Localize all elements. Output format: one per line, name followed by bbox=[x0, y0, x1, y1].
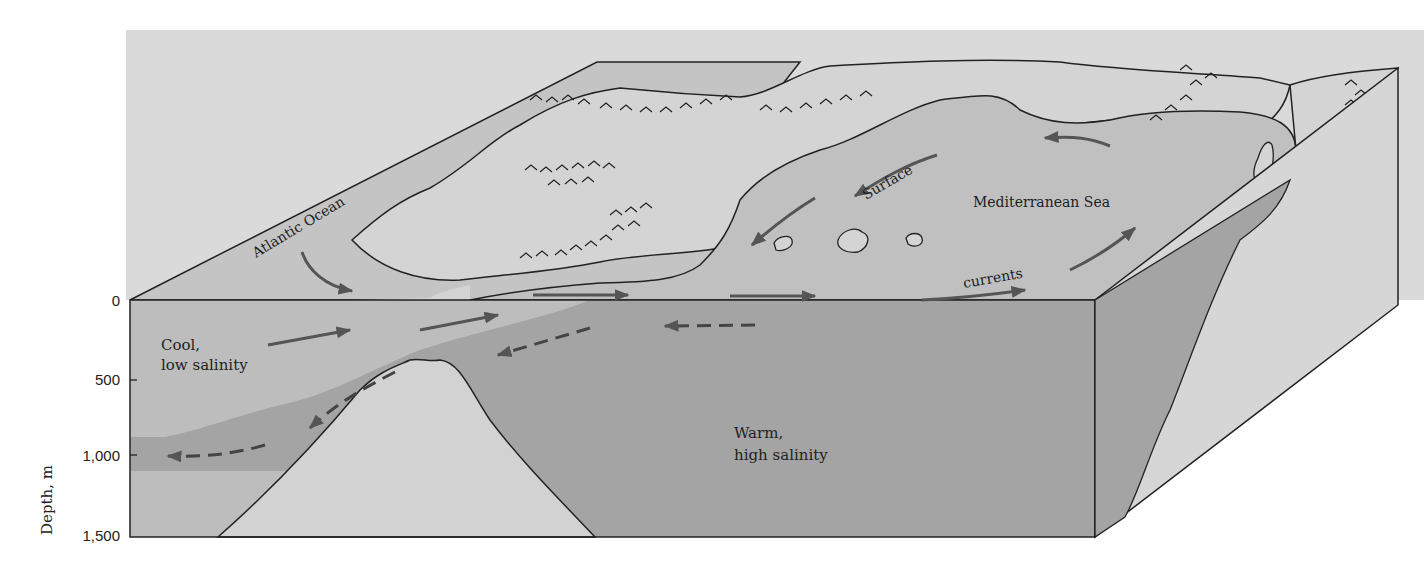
cool-water-label-line1: Cool, bbox=[161, 336, 200, 354]
warm-water-label-line2: high salinity bbox=[734, 446, 828, 464]
depth-axis: 0 500 1,000 1,500 Depth, m bbox=[38, 292, 137, 544]
warm-water-label-line1: Warm, bbox=[734, 424, 783, 442]
island-3 bbox=[906, 234, 922, 247]
depth-tick-1000: 1,000 bbox=[82, 447, 120, 464]
depth-axis-label: Depth, m bbox=[38, 465, 56, 535]
depth-tick-0: 0 bbox=[112, 292, 120, 309]
mediterranean-sea-label: Mediterranean Sea bbox=[973, 194, 1110, 210]
diagram-canvas: Atlantic Ocean Surface Mediterranean Sea… bbox=[0, 0, 1424, 563]
depth-tick-500: 500 bbox=[95, 371, 120, 388]
cool-water-label-line2: low salinity bbox=[161, 356, 248, 374]
depth-tick-1500: 1,500 bbox=[82, 527, 120, 544]
